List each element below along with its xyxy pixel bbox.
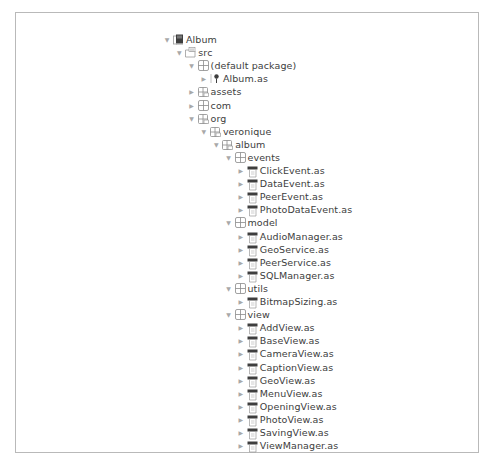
package-explorer-panel: ▼Album▼src▼(default package)▶Album.as▶as… [15, 12, 479, 453]
expand-triangle-down-icon[interactable]: ▼ [200, 126, 208, 136]
tree-item[interactable]: ▶com [188, 99, 232, 112]
tree-item[interactable]: ▼utils [225, 282, 268, 295]
tree-item-label: GeoView.as [260, 374, 315, 387]
expand-triangle-right-icon[interactable]: ▶ [200, 74, 208, 84]
tree-item[interactable]: ▼src [175, 46, 212, 59]
expand-triangle-down-icon[interactable]: ▼ [225, 283, 233, 293]
actionscript-file-icon [247, 296, 258, 307]
tree-item-label: SQLManager.as [260, 269, 335, 282]
expand-triangle-down-icon[interactable]: ▼ [163, 35, 171, 45]
expand-triangle-right-icon[interactable]: ▶ [237, 388, 245, 398]
expand-triangle-right-icon[interactable]: ▶ [237, 270, 245, 280]
actionscript-file-icon [247, 427, 258, 438]
expand-triangle-down-icon[interactable]: ▼ [225, 152, 233, 162]
tree-item[interactable]: ▶AddView.as [237, 321, 315, 334]
tree-item[interactable]: ▶MenuView.as [237, 387, 323, 400]
tree-item-label: AddView.as [260, 321, 315, 334]
expand-triangle-right-icon[interactable]: ▶ [237, 192, 245, 202]
actionscript-file-icon [247, 257, 258, 268]
expand-triangle-right-icon[interactable]: ▶ [237, 336, 245, 346]
package-icon [235, 152, 246, 163]
actionscript-file-icon [247, 388, 258, 399]
tree-item-label: BaseView.as [260, 334, 320, 347]
actionscript-file-icon [247, 401, 258, 412]
expand-triangle-right-icon[interactable]: ▶ [237, 166, 245, 176]
expand-triangle-right-icon[interactable]: ▶ [237, 297, 245, 307]
actionscript-file-icon [247, 348, 258, 359]
tree-item[interactable]: ▼(default package) [188, 59, 297, 72]
expand-triangle-down-icon[interactable]: ▼ [225, 218, 233, 228]
expand-triangle-down-icon[interactable]: ▼ [175, 48, 183, 58]
tree-item[interactable]: ▶assets [188, 85, 242, 98]
tree-item[interactable]: ▶SavingView.as [237, 426, 329, 439]
actionscript-file-icon [247, 270, 258, 281]
tree-item-label: album [235, 138, 265, 151]
expand-triangle-down-icon[interactable]: ▼ [188, 61, 196, 71]
expand-triangle-down-icon[interactable]: ▼ [225, 310, 233, 320]
expand-triangle-right-icon[interactable]: ▶ [237, 231, 245, 241]
tree-item[interactable]: ▶CaptionView.as [237, 361, 334, 374]
tree-item[interactable]: ▼events [225, 151, 281, 164]
expand-triangle-right-icon[interactable]: ▶ [237, 414, 245, 424]
tree-item[interactable]: ▶PeerService.as [237, 256, 331, 269]
expand-triangle-right-icon[interactable]: ▶ [237, 257, 245, 267]
expand-triangle-right-icon[interactable]: ▶ [237, 441, 245, 451]
tree-item-label: org [211, 112, 227, 125]
expand-triangle-right-icon[interactable]: ▶ [188, 87, 196, 97]
tree-item-label: SavingView.as [260, 426, 329, 439]
expand-triangle-right-icon[interactable]: ▶ [237, 179, 245, 189]
tree-item-label: src [198, 46, 212, 59]
tree-item[interactable]: ▶SQLManager.as [237, 269, 335, 282]
expand-triangle-right-icon[interactable]: ▶ [237, 349, 245, 359]
expand-triangle-down-icon[interactable]: ▼ [212, 139, 220, 149]
tree-item-label: veronique [223, 125, 271, 138]
expand-triangle-right-icon[interactable]: ▶ [188, 100, 196, 110]
expand-triangle-right-icon[interactable]: ▶ [237, 428, 245, 438]
expand-triangle-right-icon[interactable]: ▶ [237, 362, 245, 372]
tree-item-label: PeerService.as [260, 256, 331, 269]
tree-item-label: GeoService.as [260, 243, 329, 256]
tree-item-label: ViewManager.as [260, 439, 339, 452]
tree-item[interactable]: ▶Album.as [200, 72, 268, 85]
source-folder-icon [185, 47, 196, 58]
actionscript-file-icon [247, 244, 258, 255]
expand-triangle-right-icon[interactable]: ▶ [237, 205, 245, 215]
tree-item[interactable]: ▶CameraView.as [237, 347, 334, 360]
tree-item-label: CameraView.as [260, 347, 334, 360]
tree-item[interactable]: ▼view [225, 308, 270, 321]
package-folder-icon [222, 139, 233, 150]
tree-item[interactable]: ▶PeerEvent.as [237, 190, 323, 203]
tree-item[interactable]: ▶GeoService.as [237, 243, 329, 256]
expand-triangle-right-icon[interactable]: ▶ [237, 375, 245, 385]
package-icon [235, 309, 246, 320]
tree-item[interactable]: ▼org [188, 112, 227, 125]
tree-item-label: model [248, 216, 278, 229]
tree-item-label: Album [186, 33, 217, 46]
tree-item[interactable]: ▶BaseView.as [237, 334, 320, 347]
tree-item[interactable]: ▼Album [163, 33, 217, 46]
tree-item[interactable]: ▼model [225, 216, 278, 229]
tree-item-label: Album.as [223, 72, 268, 85]
expand-triangle-down-icon[interactable]: ▼ [188, 113, 196, 123]
tree-item-label: PhotoDataEvent.as [260, 203, 353, 216]
package-icon [198, 100, 209, 111]
actionscript-file-icon [247, 322, 258, 333]
tree-item[interactable]: ▼veronique [200, 125, 271, 138]
actionscript-file-icon [247, 231, 258, 242]
package-icon [235, 217, 246, 228]
tree-item[interactable]: ▶PhotoView.as [237, 413, 324, 426]
tree-item[interactable]: ▶DataEvent.as [237, 177, 325, 190]
tree-item[interactable]: ▶PhotoDataEvent.as [237, 203, 353, 216]
tree-item[interactable]: ▶GeoView.as [237, 374, 315, 387]
tree-item[interactable]: ▼album [212, 138, 265, 151]
expand-triangle-right-icon[interactable]: ▶ [237, 244, 245, 254]
expand-triangle-right-icon[interactable]: ▶ [237, 323, 245, 333]
expand-triangle-right-icon[interactable]: ▶ [237, 401, 245, 411]
tree-item[interactable]: ▶BitmapSizing.as [237, 295, 338, 308]
tree-item[interactable]: ▶OpeningView.as [237, 400, 337, 413]
tree-item-label: PhotoView.as [260, 413, 324, 426]
tree-item[interactable]: ▶ClickEvent.as [237, 164, 325, 177]
tree-item[interactable]: ▶ViewManager.as [237, 439, 339, 452]
actionscript-file-icon [247, 335, 258, 346]
tree-item[interactable]: ▶AudioManager.as [237, 230, 343, 243]
